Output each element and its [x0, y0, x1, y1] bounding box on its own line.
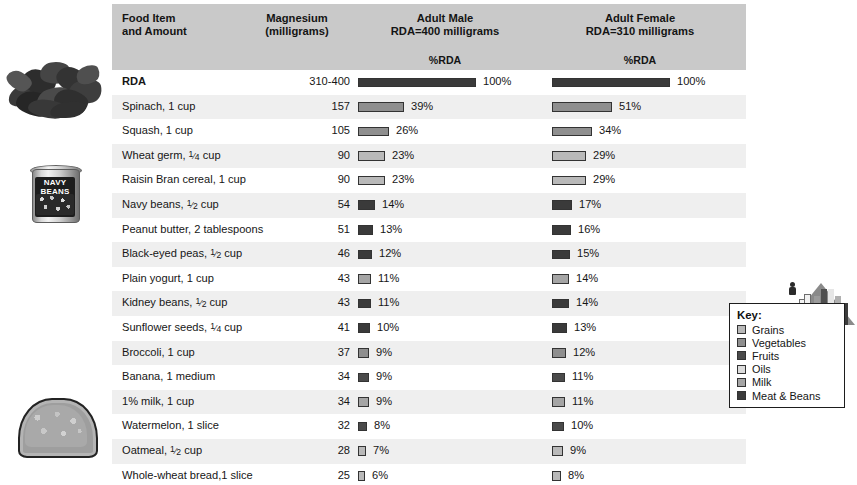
cell-female-rda-bar: 16% [552, 218, 742, 243]
female-pct-bar [552, 250, 570, 260]
cell-magnesium-mg: 28 [242, 444, 350, 456]
subheader-male-pct-rda: %RDA [350, 54, 540, 66]
female-pct-bar [552, 200, 572, 210]
table-header: Food Item and Amount Magnesium (milligra… [112, 4, 746, 70]
cell-magnesium-mg: 46 [242, 247, 350, 259]
can-bean-texture [36, 194, 74, 215]
table-row: Whole-wheat bread,1 slice256%8% [112, 464, 746, 485]
male-pct-label: 9% [376, 370, 392, 382]
cell-magnesium-mg: 51 [242, 223, 350, 235]
table-row: Kidney beans, 1⁄2 cup4311%14% [112, 291, 746, 316]
male-pct-label: 11% [378, 296, 399, 308]
nutrition-table: Food Item and Amount Magnesium (milligra… [112, 0, 746, 475]
table-row: Sunflower seeds, 1⁄4 cup4110%13% [112, 316, 746, 341]
female-pct-bar [552, 225, 571, 235]
pyramid-climber-figure [787, 282, 798, 295]
female-pct-label: 17% [579, 198, 601, 210]
female-pct-bar [552, 274, 569, 284]
female-pct-bar [552, 323, 567, 333]
column-header-food-line2: and Amount [122, 25, 252, 38]
cell-magnesium-mg: 41 [242, 321, 350, 333]
legend-item: Milk [737, 376, 837, 389]
female-pct-label: 29% [593, 149, 615, 161]
female-pct-label: 11% [572, 370, 593, 382]
male-pct-bar [358, 127, 389, 137]
cell-male-rda-bar: 11% [358, 291, 544, 316]
male-pct-label: 9% [376, 395, 392, 407]
table-body: RDA310-400100%100%Spinach, 1 cup15739%51… [112, 70, 746, 485]
legend-key: Key: GrainsVegetablesFruitsOilsMilkMeat … [729, 303, 845, 408]
female-pct-label: 12% [573, 346, 595, 358]
cell-food-name: Broccoli, 1 cup [122, 346, 195, 358]
male-pct-label: 10% [377, 321, 399, 333]
cell-magnesium-mg: 90 [242, 173, 350, 185]
legend-swatch-icon [737, 325, 746, 334]
male-pct-label: 8% [374, 419, 390, 431]
cell-magnesium-mg: 90 [242, 149, 350, 161]
column-header-magnesium-line2: (milligrams) [242, 25, 352, 38]
cell-food-name: Kidney beans, 1⁄2 cup [122, 296, 227, 310]
female-pct-bar [552, 446, 563, 456]
subheader-female-pct-rda: %RDA [542, 54, 738, 66]
female-pct-label: 9% [570, 444, 586, 456]
male-pct-bar [358, 78, 476, 88]
cell-female-rda-bar: 51% [552, 95, 742, 120]
cell-female-rda-bar: 17% [552, 193, 742, 218]
table-row: Oatmeal, 1⁄2 cup287%9% [112, 439, 746, 464]
table-row: Watermelon, 1 slice328%10% [112, 414, 746, 439]
male-pct-bar [358, 274, 371, 284]
cell-female-rda-bar: 29% [552, 144, 742, 169]
table-row: 1% milk, 1 cup349%11% [112, 390, 746, 415]
female-pct-label: 100% [677, 75, 705, 87]
male-pct-label: 14% [382, 198, 404, 210]
navy-beans-can-photo: NAVY BEANS [28, 163, 82, 225]
male-pct-bar [358, 373, 369, 383]
cell-magnesium-mg: 34 [242, 370, 350, 382]
cell-female-rda-bar: 11% [552, 390, 742, 415]
column-header-adult-male: Adult Male RDA=400 milligrams [350, 12, 540, 38]
table-row: Wheat germ, 1⁄4 cup9023%29% [112, 144, 746, 169]
cell-female-rda-bar: 14% [552, 267, 742, 292]
male-pct-label: 9% [376, 346, 392, 358]
cell-male-rda-bar: 10% [358, 316, 544, 341]
male-pct-bar [358, 176, 385, 186]
cell-female-rda-bar: 13% [552, 316, 742, 341]
male-pct-bar [358, 250, 372, 260]
cell-food-name: Wheat germ, 1⁄4 cup [122, 149, 221, 163]
cell-magnesium-mg: 157 [242, 100, 350, 112]
female-pct-bar [552, 299, 569, 309]
female-pct-label: 14% [576, 296, 598, 308]
male-pct-bar [358, 225, 373, 235]
legend-item: Vegetables [737, 336, 837, 349]
column-header-adult-female: Adult Female RDA=310 milligrams [542, 12, 738, 38]
cell-food-name: Plain yogurt, 1 cup [122, 272, 214, 284]
cell-male-rda-bar: 7% [358, 439, 544, 464]
cell-male-rda-bar: 11% [358, 267, 544, 292]
male-pct-bar [358, 348, 369, 358]
cell-male-rda-bar: 12% [358, 242, 544, 267]
legend-item: Meat & Beans [737, 389, 837, 402]
legend-item-label: Vegetables [752, 337, 806, 349]
cell-female-rda-bar: 10% [552, 414, 742, 439]
bread-slice-photo [18, 390, 96, 456]
table-row: Plain yogurt, 1 cup4311%14% [112, 267, 746, 292]
cell-food-name: RDA [122, 75, 146, 87]
male-pct-bar [358, 323, 370, 333]
male-pct-bar [358, 397, 369, 407]
column-header-female-line2: RDA=310 milligrams [542, 25, 738, 38]
cell-male-rda-bar: 14% [358, 193, 544, 218]
column-header-female-line1: Adult Female [542, 12, 738, 25]
female-pct-bar [552, 151, 586, 161]
cell-female-rda-bar: 34% [552, 119, 742, 144]
cell-food-name: 1% milk, 1 cup [122, 395, 194, 407]
female-pct-bar [552, 422, 564, 432]
legend-swatch-icon [737, 365, 746, 374]
column-header-food-line1: Food Item [122, 12, 252, 25]
cell-magnesium-mg: 37 [242, 346, 350, 358]
fraction-glyph: 1⁄2 [187, 199, 198, 211]
cell-female-rda-bar: 14% [552, 291, 742, 316]
cell-male-rda-bar: 26% [358, 119, 544, 144]
cell-food-name: Squash, 1 cup [122, 124, 193, 136]
cell-magnesium-mg: 43 [242, 272, 350, 284]
cell-magnesium-mg: 105 [242, 124, 350, 136]
